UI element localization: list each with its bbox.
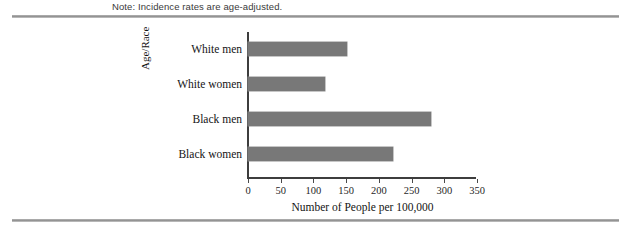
x-axis-tick	[444, 179, 445, 183]
x-axis-title: Number of People per 100,000	[248, 200, 477, 214]
x-axis-tick	[248, 179, 249, 183]
x-axis-tick	[346, 179, 347, 183]
x-axis-tick	[379, 179, 380, 183]
y-axis-category-label: White women	[177, 77, 242, 91]
x-axis-tick-label: 0	[245, 184, 250, 197]
x-axis-tick-label: 250	[404, 184, 420, 197]
y-axis-category-label: Black men	[193, 112, 243, 126]
x-axis-tick	[412, 179, 413, 183]
x-axis-tick-label: 100	[306, 184, 322, 197]
x-axis-tick-label: 300	[436, 184, 452, 197]
x-axis-tick-label: 150	[338, 184, 354, 197]
x-axis-tick	[313, 179, 314, 183]
x-axis-tick-label: 50	[275, 184, 286, 197]
x-axis-tick	[281, 179, 282, 183]
figure-root: Note: Incidence rates are age-adjusted. …	[0, 0, 631, 238]
y-axis-category-label: Black women	[178, 147, 242, 161]
bar	[248, 147, 393, 161]
bar	[248, 112, 431, 126]
bar	[248, 42, 347, 56]
bar-chart-plot-area: 050100150200250300350 White menWhite wom…	[0, 0, 631, 238]
x-axis-tick-label: 200	[371, 184, 387, 197]
y-axis-title: Age/Race	[139, 27, 152, 70]
bar	[248, 77, 325, 91]
x-axis-tick-label: 350	[469, 184, 485, 197]
y-axis-category-label: White men	[191, 42, 242, 56]
x-axis-tick	[477, 179, 478, 183]
